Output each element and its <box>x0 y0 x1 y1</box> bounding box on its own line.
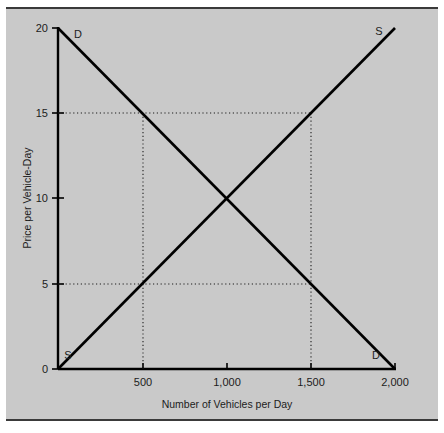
figure-container: 20 15 10 5 0 500 1,000 1,500 2,000 D S S… <box>0 0 444 433</box>
plot-panel <box>6 7 438 421</box>
